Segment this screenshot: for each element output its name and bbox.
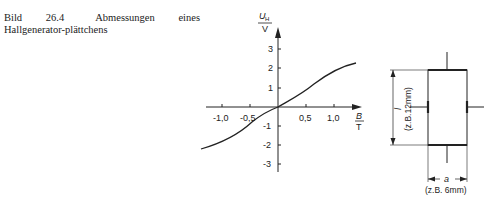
svg-text:l: l [393,107,403,110]
y-tick-label: 3 [268,44,273,54]
y-tick-label: -1 [263,121,271,131]
x-tick-label: 0,5 [299,113,312,123]
svg-text:V: V [262,24,268,34]
width-example: (z.B. 6mm) [425,185,467,195]
svg-text:(z.B.12mm): (z.B.12mm) [403,87,413,131]
x-tick-label: 1,0 [327,113,340,123]
svg-text:B: B [356,111,362,121]
svg-text:H: H [265,16,269,22]
svg-text:T: T [356,122,362,132]
x-tick-label: -0,5 [240,113,256,123]
hall-voltage-chart [201,27,362,172]
x-axis-arrow-icon [352,104,362,110]
y-tick-label: -2 [263,140,271,150]
x-axis-label: B T [355,111,364,132]
y-axis-arrow-icon [275,27,281,38]
x-tick-label: -1,0 [213,113,229,123]
y-axis-label: U H V [258,11,272,34]
width-symbol: a [444,174,449,184]
length-dimension-label: l (z.B.12mm) [393,87,413,131]
hall-figure: -1,0 -0,5 0,5 1,0 3 2 1 -1 -2 -3 U H V B… [0,0,492,198]
y-tick-label: -3 [263,159,271,169]
y-tick-label: 2 [268,63,273,73]
hall-plate [428,70,467,145]
y-tick-label: 1 [268,83,273,93]
